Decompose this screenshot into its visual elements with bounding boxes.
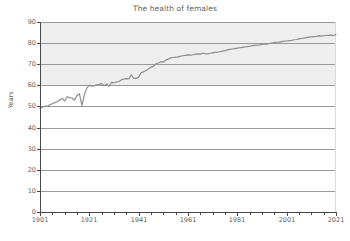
x-tick-mark-1956 — [176, 212, 177, 215]
x-tick-mark-1986 — [250, 212, 251, 215]
y-tick-label-80: 80 — [14, 39, 36, 47]
chart-title: The health of females — [0, 4, 350, 13]
x-tick-mark-1991 — [262, 212, 263, 215]
x-tick-label-1981: 1981 — [222, 216, 252, 224]
series-line-layer — [40, 22, 336, 212]
y-tick-label-20: 20 — [14, 166, 36, 174]
x-tick-mark-1946 — [151, 212, 152, 215]
y-tick-mark-30 — [37, 149, 40, 150]
y-tick-mark-40 — [37, 128, 40, 129]
x-tick-mark-1996 — [274, 212, 275, 215]
y-tick-mark-50 — [37, 106, 40, 107]
series-line-female-life-expectancy — [40, 35, 336, 109]
y-tick-label-40: 40 — [14, 124, 36, 132]
x-tick-label-1921: 1921 — [74, 216, 104, 224]
x-tick-mark-1951 — [163, 212, 164, 215]
x-tick-label-2021: 2021 — [321, 216, 350, 224]
y-tick-label-50: 50 — [14, 102, 36, 110]
x-tick-mark-1971 — [213, 212, 214, 215]
y-axis-line — [40, 22, 41, 213]
x-tick-label-1961: 1961 — [173, 216, 203, 224]
x-tick-mark-1966 — [200, 212, 201, 215]
y-tick-label-30: 30 — [14, 145, 36, 153]
x-tick-label-2001: 2001 — [272, 216, 302, 224]
x-tick-mark-2016 — [324, 212, 325, 215]
y-tick-mark-60 — [37, 85, 40, 86]
x-tick-mark-2006 — [299, 212, 300, 215]
x-tick-mark-2011 — [311, 212, 312, 215]
x-tick-mark-1931 — [114, 212, 115, 215]
x-tick-mark-1976 — [225, 212, 226, 215]
x-tick-label-1901: 1901 — [25, 216, 55, 224]
y-tick-mark-80 — [37, 43, 40, 44]
y-tick-mark-90 — [37, 22, 40, 23]
x-tick-mark-1916 — [77, 212, 78, 215]
x-tick-mark-1911 — [65, 212, 66, 215]
chart-container: The health of females Years 908070605040… — [0, 0, 350, 241]
x-tick-mark-1936 — [126, 212, 127, 215]
plot-area — [40, 22, 336, 212]
y-tick-mark-20 — [37, 170, 40, 171]
x-tick-mark-1906 — [52, 212, 53, 215]
y-tick-label-60: 60 — [14, 81, 36, 89]
y-tick-label-0: 0 — [14, 208, 36, 216]
y-tick-mark-70 — [37, 64, 40, 65]
y-tick-label-90: 90 — [14, 18, 36, 26]
x-tick-mark-1926 — [102, 212, 103, 215]
x-tick-label-1941: 1941 — [124, 216, 154, 224]
y-tick-label-70: 70 — [14, 60, 36, 68]
y-tick-mark-10 — [37, 191, 40, 192]
y-tick-label-10: 10 — [14, 187, 36, 195]
